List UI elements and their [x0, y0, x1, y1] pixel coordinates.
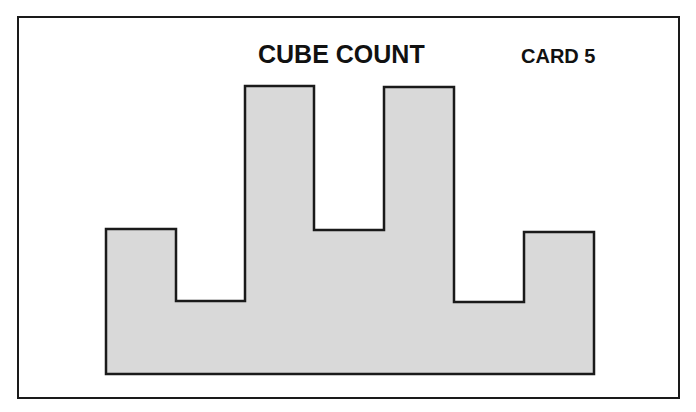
cube-silhouette — [0, 0, 696, 412]
cube-silhouette-polygon — [106, 86, 594, 374]
